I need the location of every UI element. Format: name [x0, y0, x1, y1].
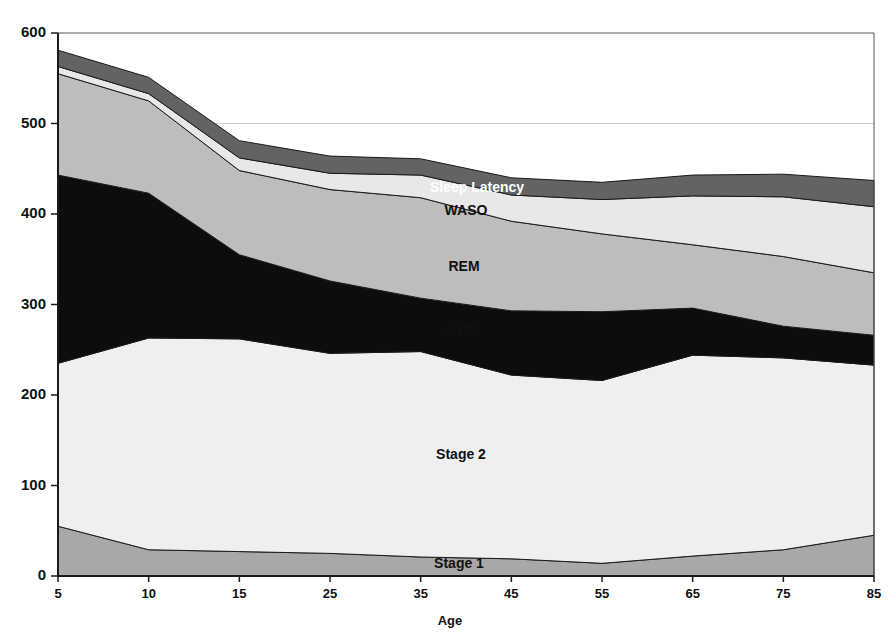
x-tick-label: 45	[491, 586, 531, 601]
y-tick-label: 400	[2, 204, 46, 221]
x-tick-label: 75	[763, 586, 803, 601]
y-tick-label: 300	[2, 295, 46, 312]
x-tick-label: 65	[673, 586, 713, 601]
y-tick-label: 0	[2, 566, 46, 583]
x-tick-label: 85	[854, 586, 894, 601]
x-tick-label: 10	[129, 586, 169, 601]
x-tick-label: 55	[582, 586, 622, 601]
series-label-stage-2: Stage 2	[436, 446, 486, 462]
series-label-stage-1: Stage 1	[434, 555, 484, 571]
series-label-rem: REM	[448, 258, 479, 274]
y-tick-label: 200	[2, 385, 46, 402]
x-tick-label: 35	[401, 586, 441, 601]
y-tick-label: 100	[2, 476, 46, 493]
series-label-sws: SWS	[447, 320, 479, 336]
series-label-sleep-latency: Sleep Latency	[430, 179, 524, 195]
y-tick-label: 600	[2, 23, 46, 40]
series-label-waso: WASO	[445, 202, 488, 218]
y-tick-label: 500	[2, 114, 46, 131]
x-tick-label: 5	[38, 586, 78, 601]
x-tick-label: 25	[310, 586, 350, 601]
sleep-architecture-area-chart: 0100200300400500600 5101525354555657585 …	[0, 0, 894, 641]
x-tick-label: 15	[219, 586, 259, 601]
x-axis-title: Age	[390, 613, 510, 628]
